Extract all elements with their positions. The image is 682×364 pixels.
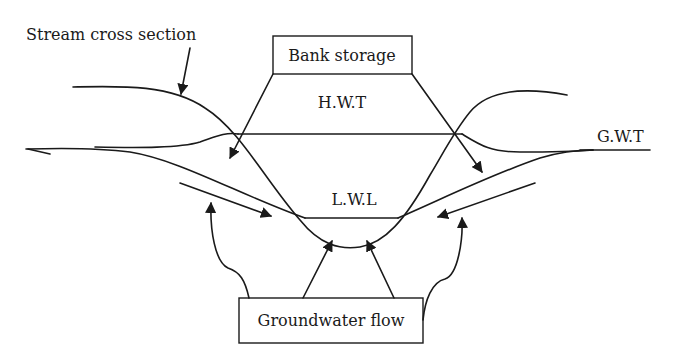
left-gwt-curve [95,134,238,148]
bank-storage-diagram: Stream cross section Bank storage H.W.T … [0,0,682,364]
lwl-label: L.W.L [331,190,376,209]
groundwater-flow-label: Groundwater flow [258,311,405,330]
left-lower-boundary [26,148,305,218]
gw-right-curved-arrow [423,218,462,320]
left-tail-tick [28,149,50,154]
right-seepage-arrow [438,183,535,217]
right-gwt-curve [462,134,593,152]
stream-cross-section-arrow [181,48,190,94]
right-lower-boundary [398,150,593,218]
gw-inner-right-arrow [367,241,394,298]
gwt-label: G.W.T [597,127,644,146]
bank-storage-label: Bank storage [288,46,396,65]
bank-storage-left-arrow [230,74,273,158]
gw-left-curved-arrow [211,203,249,298]
bank-storage-right-arrow [412,74,482,172]
stream-cross-section-label: Stream cross section [26,25,196,44]
hwt-label: H.W.T [318,93,367,112]
gw-inner-left-arrow [303,241,332,298]
